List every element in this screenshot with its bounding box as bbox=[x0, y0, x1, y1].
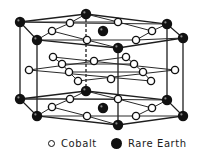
cobalt-atom bbox=[83, 112, 90, 119]
cobalt-atom bbox=[25, 66, 32, 73]
cobalt-atom bbox=[171, 66, 178, 73]
legend-label-cobalt: Cobalt bbox=[61, 138, 97, 149]
atom-highlight bbox=[83, 88, 85, 90]
cobalt-atom bbox=[148, 104, 155, 111]
rare-earth-atom bbox=[178, 111, 188, 121]
rare-earth-atom bbox=[98, 26, 108, 36]
rare-earth-atom bbox=[113, 120, 123, 130]
legend-item-rare-earth: Rare Earth bbox=[111, 138, 187, 149]
rare-earth-atom bbox=[178, 33, 188, 43]
cobalt-atom bbox=[132, 112, 139, 119]
atom-highlight bbox=[115, 45, 117, 47]
cobalt-atom bbox=[58, 60, 65, 67]
rare-earth-atom bbox=[81, 86, 91, 96]
cobalt-atom bbox=[83, 36, 90, 43]
atom-highlight bbox=[100, 105, 102, 107]
cobalt-atom bbox=[74, 77, 81, 84]
atom-highlight bbox=[180, 35, 182, 37]
rare-earth-atom bbox=[32, 111, 42, 121]
rare-earth-atom bbox=[81, 9, 91, 19]
cobalt-atom bbox=[139, 68, 146, 75]
atom-highlight bbox=[34, 113, 36, 115]
cobalt-atom bbox=[147, 77, 154, 84]
cobalt-atom bbox=[66, 19, 73, 26]
atom-highlight bbox=[164, 97, 166, 99]
cobalt-atom bbox=[66, 95, 73, 102]
cobalt-atom bbox=[148, 27, 155, 34]
atom-highlight bbox=[100, 28, 102, 30]
cobalt-atom bbox=[48, 27, 55, 34]
legend-label-rare-earth: Rare Earth bbox=[128, 138, 187, 149]
cobalt-atom bbox=[90, 57, 97, 64]
rare-earth-atom bbox=[98, 103, 108, 113]
cobalt-atom bbox=[122, 53, 129, 60]
legend-item-cobalt: Cobalt bbox=[48, 138, 97, 149]
atom-highlight bbox=[115, 122, 117, 124]
cobalt-atom bbox=[114, 95, 121, 102]
rare-earth-atoms bbox=[15, 9, 188, 130]
rare-earth-atom bbox=[162, 19, 172, 29]
cobalt-atom bbox=[65, 68, 72, 75]
atom-highlight bbox=[180, 113, 182, 115]
rare-earth-atom bbox=[32, 35, 42, 45]
rare-earth-atom bbox=[15, 94, 25, 104]
rare-earth-symbol-icon bbox=[111, 138, 122, 149]
crystal-lattice-diagram bbox=[0, 0, 205, 159]
atom-highlight bbox=[17, 96, 19, 98]
atom-highlight bbox=[17, 19, 19, 21]
rare-earth-atom bbox=[15, 17, 25, 27]
cobalt-symbol-icon bbox=[48, 140, 55, 147]
atom-highlight bbox=[83, 11, 85, 13]
cobalt-atom bbox=[130, 60, 137, 67]
atom-highlight bbox=[34, 37, 36, 39]
cobalt-atom bbox=[48, 103, 55, 110]
rare-earth-atom bbox=[162, 95, 172, 105]
legend: Cobalt Rare Earth bbox=[48, 138, 201, 149]
atom-highlight bbox=[164, 21, 166, 23]
cobalt-atom bbox=[107, 75, 114, 82]
rare-earth-atom bbox=[113, 43, 123, 53]
cobalt-atom bbox=[114, 18, 121, 25]
cobalt-atom bbox=[132, 36, 139, 43]
cobalt-atom bbox=[49, 53, 56, 60]
